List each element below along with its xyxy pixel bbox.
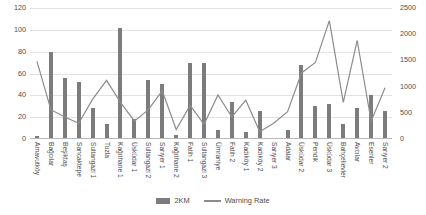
category-label: Üsküdar 3 bbox=[326, 142, 333, 172]
legend-line-swatch-icon bbox=[204, 200, 221, 202]
category-label-slot: Sultangazi 1 bbox=[86, 140, 100, 196]
left-axis-tick: 100 bbox=[14, 26, 26, 33]
category-label: Ümraniye bbox=[215, 142, 222, 170]
category-label: Sultangazi 1 bbox=[89, 142, 96, 178]
category-label-slot: Beşiktaş bbox=[58, 140, 72, 196]
right-axis-tick: 2000 bbox=[400, 31, 416, 38]
right-axis-tick: 1500 bbox=[400, 57, 416, 64]
category-label: Sultangazi 2 bbox=[145, 142, 152, 178]
category-label: Esenler bbox=[368, 142, 375, 164]
category-label: Fatih 2 bbox=[229, 142, 236, 162]
category-label: Tuzla bbox=[103, 142, 110, 158]
category-label-slot: Adalar bbox=[281, 140, 295, 196]
line-series-warning-rate bbox=[30, 8, 392, 139]
category-label: Üsküdar 1 bbox=[131, 142, 138, 172]
category-label: Avcılar bbox=[354, 142, 361, 162]
category-label: Sarıyer 2 bbox=[382, 142, 389, 169]
right-axis-tick: 2500 bbox=[400, 4, 416, 11]
category-label-slot: Sarıyer 2 bbox=[378, 140, 392, 196]
category-label-slot: Sancaktepe bbox=[72, 140, 86, 196]
category-label-slot: Kadıköy 1 bbox=[239, 140, 253, 196]
category-label: Bahçelievler bbox=[340, 142, 347, 178]
category-label-slot: Üsküdar 3 bbox=[322, 140, 336, 196]
left-axis-tick: 20 bbox=[18, 114, 26, 121]
chart-container: 020406080100120 05001000150020002500 Arn… bbox=[0, 0, 426, 215]
category-label: Sarıyer 1 bbox=[159, 142, 166, 169]
category-label: Üsküdar 2 bbox=[298, 142, 305, 172]
category-label-slot: Avcılar bbox=[350, 140, 364, 196]
category-label-slot: Kadıköy 2 bbox=[253, 140, 267, 196]
category-label: Kadıköy 2 bbox=[256, 142, 263, 171]
right-value-axis: 05001000150020002500 bbox=[396, 0, 422, 139]
category-label-slot: Sultangazi 3 bbox=[197, 140, 211, 196]
left-value-axis: 020406080100120 bbox=[0, 0, 26, 139]
left-axis-tick: 0 bbox=[22, 135, 26, 142]
category-label: Kağıthane 1 bbox=[117, 142, 124, 178]
category-label-slot: Tuzla bbox=[100, 140, 114, 196]
chart-legend: 2KM Warning Rate bbox=[0, 197, 426, 204]
category-label-slot: Fatih 1 bbox=[183, 140, 197, 196]
category-label-slot: Sarıyer 1 bbox=[155, 140, 169, 196]
category-label-slot: Kağıthane 2 bbox=[169, 140, 183, 196]
category-label-slot: Pendik bbox=[308, 140, 322, 196]
right-axis-tick: 0 bbox=[400, 135, 404, 142]
category-label: Beşiktaş bbox=[62, 142, 69, 167]
category-label-slot: Bağcılar bbox=[44, 140, 58, 196]
category-label-slot: Esenler bbox=[364, 140, 378, 196]
category-label: Bağcılar bbox=[48, 142, 55, 166]
category-label: Sarıyer 3 bbox=[270, 142, 277, 169]
plot-area bbox=[30, 8, 392, 139]
category-label: Pendik bbox=[312, 142, 319, 162]
legend-item-2km: 2KM bbox=[156, 197, 189, 204]
right-axis-tick: 1000 bbox=[400, 83, 416, 90]
category-label: Adalar bbox=[284, 142, 291, 161]
category-label-slot: Kağıthane 1 bbox=[114, 140, 128, 196]
legend-label-warning-rate: Warning Rate bbox=[225, 197, 270, 204]
legend-bar-swatch-icon bbox=[156, 198, 170, 204]
left-axis-tick: 120 bbox=[14, 4, 26, 11]
left-axis-tick: 60 bbox=[18, 70, 26, 77]
category-label-slot: Ümraniye bbox=[211, 140, 225, 196]
left-axis-tick: 40 bbox=[18, 92, 26, 99]
category-axis-labels: ArnavutköyBağcılarBeşiktaşSancaktepeSult… bbox=[30, 140, 392, 196]
category-label-slot: Arnavutköy bbox=[30, 140, 44, 196]
category-label-slot: Sarıyer 3 bbox=[267, 140, 281, 196]
left-axis-tick: 80 bbox=[18, 48, 26, 55]
category-label-slot: Üsküdar 1 bbox=[127, 140, 141, 196]
legend-item-warning-rate: Warning Rate bbox=[204, 197, 270, 204]
category-label: Sultangazi 3 bbox=[201, 142, 208, 178]
category-label: Sancaktepe bbox=[75, 142, 82, 177]
category-label-slot: Sultangazi 2 bbox=[141, 140, 155, 196]
category-label: Fatih 1 bbox=[187, 142, 194, 162]
category-label-slot: Bahçelievler bbox=[336, 140, 350, 196]
category-label: Kadıköy 1 bbox=[243, 142, 250, 171]
category-label: Kağıthane 2 bbox=[173, 142, 180, 178]
category-label-slot: Üsküdar 2 bbox=[295, 140, 309, 196]
category-label-slot: Fatih 2 bbox=[225, 140, 239, 196]
category-axis-line bbox=[30, 138, 392, 139]
legend-label-2km: 2KM bbox=[174, 197, 189, 204]
right-axis-tick: 500 bbox=[400, 109, 412, 116]
category-label: Arnavutköy bbox=[34, 142, 41, 175]
